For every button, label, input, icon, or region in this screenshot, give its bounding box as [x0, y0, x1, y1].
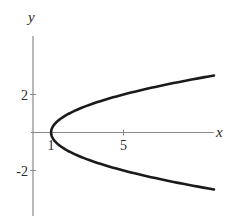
x-tick-label: 5 [120, 138, 127, 153]
chart-plot-area: y x 15 2-2 [0, 0, 229, 216]
x-axis-label: x [215, 124, 223, 140]
y-tick-label: -2 [16, 164, 28, 179]
y-tick-label: 2 [21, 88, 28, 103]
y-axis-label: y [26, 9, 35, 25]
